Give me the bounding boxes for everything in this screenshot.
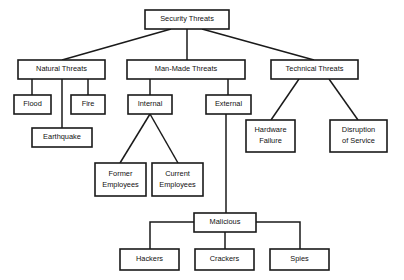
node-label-malicious: Malicious [210, 217, 241, 226]
node-label-former-employees: Employees [102, 180, 139, 189]
node-spies[interactable]: Spies [270, 249, 329, 270]
node-label-crackers: Crackers [210, 254, 240, 263]
node-label-disruption-of-service: Disruption [342, 125, 375, 134]
node-hardware-failure[interactable]: HardwareFailure [246, 120, 295, 152]
node-flood[interactable]: Flood [14, 95, 51, 114]
node-label-current-employees: Employees [159, 180, 196, 189]
node-external[interactable]: External [206, 95, 251, 114]
node-label-former-employees: Former [109, 169, 133, 178]
node-label-flood: Flood [23, 99, 42, 108]
node-hackers[interactable]: Hackers [120, 249, 179, 270]
edge-malicious-hackers [150, 222, 194, 249]
node-label-hardware-failure: Failure [259, 136, 282, 145]
node-malicious[interactable]: Malicious [194, 213, 256, 232]
edge-security-natural [62, 29, 171, 60]
node-security-threats[interactable]: Security Threats [145, 10, 229, 29]
node-earthquake[interactable]: Earthquake [32, 128, 92, 147]
edge-technical-disruption [329, 79, 358, 120]
node-man-made-threats[interactable]: Man-Made Threats [127, 60, 245, 79]
node-fire[interactable]: Fire [71, 95, 105, 114]
node-label-technical-threats: Technical Threats [286, 64, 344, 73]
node-label-hardware-failure: Hardware [254, 125, 286, 134]
node-layer: Security ThreatsNatural ThreatsMan-Made … [14, 10, 387, 270]
edge-internal-current [150, 114, 178, 163]
node-internal[interactable]: Internal [128, 95, 172, 114]
edge-internal-former [120, 114, 150, 163]
node-label-natural-threats: Natural Threats [36, 64, 87, 73]
edge-malicious-spies [256, 222, 300, 249]
node-former-employees[interactable]: FormerEmployees [95, 163, 146, 196]
node-label-fire: Fire [82, 99, 95, 108]
node-label-spies: Spies [290, 254, 309, 263]
node-label-hackers: Hackers [136, 254, 163, 263]
node-label-internal: Internal [138, 99, 163, 108]
node-label-earthquake: Earthquake [43, 132, 81, 141]
node-label-security-threats: Security Threats [160, 14, 214, 23]
node-label-current-employees: Current [165, 169, 190, 178]
node-crackers[interactable]: Crackers [195, 249, 254, 270]
node-disruption-of-service[interactable]: Disruptionof Service [330, 120, 387, 152]
node-label-disruption-of-service: of Service [342, 136, 375, 145]
diagram-canvas: Security ThreatsNatural ThreatsMan-Made … [0, 0, 404, 280]
node-current-employees[interactable]: CurrentEmployees [152, 163, 203, 196]
edge-security-technical [202, 29, 314, 60]
node-label-external: External [215, 99, 242, 108]
node-natural-threats[interactable]: Natural Threats [18, 60, 105, 79]
node-technical-threats[interactable]: Technical Threats [271, 60, 358, 79]
edge-technical-hardware [271, 79, 299, 120]
security-threats-diagram: Security ThreatsNatural ThreatsMan-Made … [0, 0, 404, 280]
node-label-man-made-threats: Man-Made Threats [155, 64, 218, 73]
